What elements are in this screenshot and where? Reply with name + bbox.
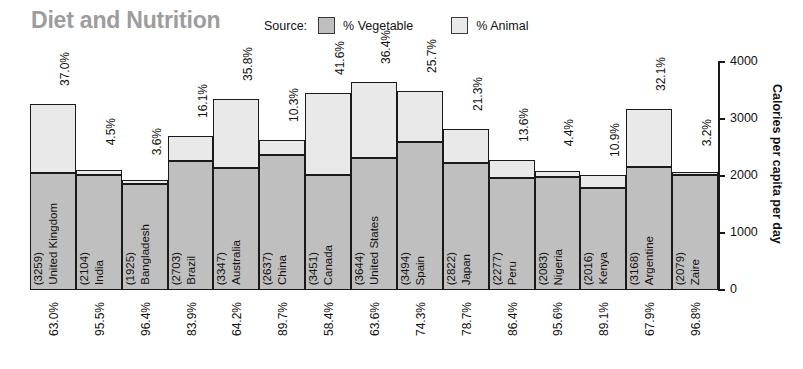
bar-segment-vegetable: Peru(2277) [489,178,535,290]
bar-spain[interactable]: Spain(3494) [397,91,443,290]
bar-country-name: China [275,255,290,285]
bar-segment-vegetable: Canada(3451) [305,175,351,290]
bar-bangladesh[interactable]: Bangladesh(1925) [122,180,168,290]
bar-label-animal-pct: 25.7% [425,39,439,73]
legend-label-animal: % Animal [476,19,528,33]
bar-segment-animal [489,160,535,178]
bar-segment-animal [580,175,626,188]
bar-label-vegetable-pct: 96.8% [689,302,703,336]
bar-nigeria[interactable]: Nigeria(2083) [535,171,581,290]
bar-total-calories: (1925) [123,252,138,285]
bar-total-calories: (3347) [214,252,229,285]
bar-total-calories: (2703) [169,252,184,285]
bar-total-calories: (2104) [77,252,92,285]
bar-china[interactable]: China(2637) [259,140,305,290]
y-axis-tick [718,118,725,120]
bar-country-name: Japan [459,254,474,285]
y-axis-tick-label: 3000 [730,111,758,125]
bar-label-animal-pct: 32.1% [654,57,668,91]
bar-segment-animal [351,82,397,158]
bar-country-name: Zaire [688,259,703,285]
bar-country-name: United States [367,216,382,285]
legend-swatch-animal [451,17,468,34]
bar-segment-vegetable: United States(3644) [351,158,397,290]
bar-segment-animal [259,140,305,155]
bar-segment-vegetable: Kenya(2016) [580,188,626,290]
bar-total-calories: (2079) [673,252,688,285]
bar-label-animal-pct: 13.6% [517,108,531,142]
bar-country-name: Canada [321,245,336,285]
bar-total-calories: (2277) [490,252,505,285]
bar-label-vegetable-pct: 96.4% [139,302,153,336]
bar-label-vegetable-pct: 95.6% [551,302,565,336]
bar-segment-vegetable: Japan(2822) [443,163,489,290]
bar-united-states[interactable]: United States(3644) [351,82,397,290]
bar-country-name: Nigeria [551,249,566,285]
bar-country-name: Peru [505,261,520,285]
bar-label-animal-pct: 35.8% [241,47,255,81]
bar-united-kingdom[interactable]: United Kingdom(3259) [30,104,76,290]
bar-segment-animal [443,129,489,163]
chart-legend: Source: % Vegetable % Animal [264,17,528,34]
bar-segment-vegetable: India(2104) [76,175,122,290]
bar-total-calories: (2083) [536,252,551,285]
bar-argentine[interactable]: Argentine(3168) [626,109,672,290]
y-axis-tick [718,289,725,291]
bar-label-animal-pct: 41.6% [333,41,347,75]
bar-label-vegetable-pct: 89.7% [276,302,290,336]
bar-total-calories: (2016) [581,252,596,285]
bar-label-vegetable-pct: 78.7% [460,302,474,336]
bar-segment-vegetable: China(2637) [259,155,305,290]
bar-label-animal-pct: 36.4% [379,30,393,64]
bar-segment-animal [397,91,443,142]
y-axis-tick [718,232,725,234]
bar-label-vegetable-pct: 95.5% [93,302,107,336]
bar-label-vegetable-pct: 64.2% [230,302,244,336]
bar-label-animal-pct: 3.6% [150,128,164,155]
bar-total-calories: (3644) [352,252,367,285]
bar-total-calories: (2822) [444,252,459,285]
bar-total-calories: (3451) [306,252,321,285]
bar-japan[interactable]: Japan(2822) [443,129,489,290]
bar-total-calories: (3494) [398,252,413,285]
bar-country-name: Australia [229,240,244,285]
bar-label-animal-pct: 4.4% [562,119,576,146]
y-axis-tick [718,175,725,177]
bar-segment-vegetable: Brazil(2703) [168,161,214,290]
bar-segment-vegetable: United Kingdom(3259) [30,173,76,290]
bar-total-calories: (3259) [31,252,46,285]
bar-segment-vegetable: Australia(3347) [213,168,259,290]
chart-canvas: Diet and Nutrition Source: % Vegetable %… [0,0,803,369]
bar-segment-animal [305,93,351,175]
bar-segment-animal [626,109,672,167]
bar-label-animal-pct: 16.1% [196,84,210,118]
bar-kenya[interactable]: Kenya(2016) [580,175,626,290]
bar-canada[interactable]: Canada(3451) [305,93,351,290]
bar-label-vegetable-pct: 58.4% [322,302,336,336]
y-axis-tick-label: 4000 [730,54,758,68]
bar-country-name: Kenya [596,252,611,285]
bar-label-animal-pct: 10.9% [608,123,622,157]
bar-label-animal-pct: 10.3% [287,88,301,122]
bar-country-name: Spain [413,256,428,285]
y-axis-tick-label: 0 [730,282,737,296]
bar-zaire[interactable]: Zaire(2079) [672,172,718,291]
bar-india[interactable]: India(2104) [76,170,122,290]
bar-segment-animal [168,136,214,161]
bar-label-animal-pct: 21.3% [471,77,485,111]
bar-peru[interactable]: Peru(2277) [489,160,535,290]
page-title: Diet and Nutrition [31,7,220,34]
y-axis-tick [718,61,725,63]
y-axis-tick-label: 1000 [730,225,758,239]
bar-label-vegetable-pct: 86.4% [506,302,520,336]
bar-segment-vegetable: Spain(3494) [397,142,443,290]
bar-label-vegetable-pct: 67.9% [643,302,657,336]
bar-country-name: Argentine [642,236,657,285]
legend-swatch-vegetable [318,17,335,34]
bar-australia[interactable]: Australia(3347) [213,99,259,290]
bar-segment-vegetable: Zaire(2079) [672,175,718,290]
bar-brazil[interactable]: Brazil(2703) [168,136,214,290]
legend-source-label: Source: [264,19,307,33]
bar-country-name: India [92,260,107,285]
y-axis-title: Calories per capita per day [770,84,784,244]
